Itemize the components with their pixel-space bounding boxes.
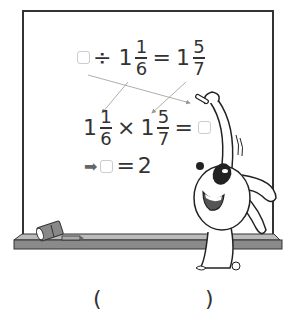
- rabbit-character: [0, 0, 290, 312]
- answer-open-paren: (: [93, 286, 102, 311]
- answer-blank[interactable]: [110, 284, 200, 308]
- answer-close-paren: ): [205, 286, 214, 311]
